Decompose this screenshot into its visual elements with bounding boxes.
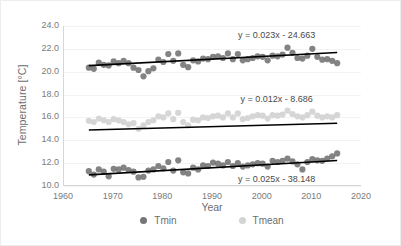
trendline-equation-tmean: y = 0.012x - 8.686: [240, 94, 312, 104]
x-tick-label: 1980: [142, 192, 182, 201]
legend-label: Tmin: [154, 215, 176, 226]
temperature-trend-chart: Temperature [°C] 10.012.014.016.018.020.…: [0, 0, 401, 246]
x-axis-title: Year: [63, 201, 361, 213]
chart-legend: TminTmean: [63, 215, 361, 226]
legend-label: Tmean: [253, 215, 284, 226]
x-tick-label: 1960: [43, 192, 83, 201]
x-tick-label: 1970: [93, 192, 133, 201]
trendline-equation-tmax: y = 0.023x - 24.663: [238, 30, 315, 40]
trendline-equation-tmin: y = 0.025x - 38.148: [238, 174, 315, 184]
x-tick-label: 1990: [192, 192, 232, 201]
legend-marker-icon: [239, 217, 246, 224]
legend-item-tmean[interactable]: Tmean: [239, 215, 284, 226]
x-tick-label: 2000: [242, 192, 282, 201]
x-tick-label: 2020: [341, 192, 381, 201]
x-tick-label: 2010: [291, 192, 331, 201]
legend-item-tmin[interactable]: Tmin: [140, 215, 176, 226]
legend-marker-icon: [140, 217, 147, 224]
